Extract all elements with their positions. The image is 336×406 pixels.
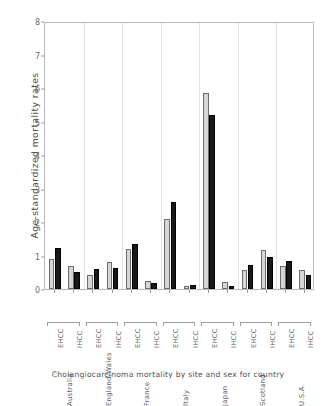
bar-u-s-a--ihcc-light — [299, 270, 305, 289]
site-tick-mark — [112, 290, 113, 293]
bar-japan-ehcc-light — [203, 93, 209, 289]
site-tick-mark — [247, 290, 248, 293]
y-axis-tick-label: 1 — [0, 252, 40, 261]
bar-japan-ihcc-dark — [229, 286, 235, 289]
bar-italy-ihcc-light — [184, 286, 190, 289]
bar-france-ehcc-dark — [132, 244, 138, 289]
bar-japan-ihcc-light — [222, 282, 228, 289]
bar-scotland-ehcc-dark — [248, 265, 254, 289]
site-tick-mark — [169, 290, 170, 293]
bar-u-s-a--ihcc-dark — [306, 275, 312, 289]
country-bracket — [86, 322, 119, 326]
country-bracket — [240, 322, 273, 326]
y-axis-tick-label: 8 — [0, 18, 40, 27]
site-tick-mark — [285, 290, 286, 293]
bar-scotland-ihcc-light — [261, 250, 267, 289]
y-axis-tick-label: 6 — [0, 85, 40, 94]
country-axis-labels: AustraliaEngland/WalesFranceItalyJapanSc… — [44, 322, 314, 366]
country-bracket — [201, 322, 234, 326]
country-label-australia: Australia — [66, 362, 74, 406]
site-axis-labels: EHCCIHCCEHCCIHCCEHCCIHCCEHCCIHCCEHCCIHCC… — [44, 292, 314, 322]
country-label-france: France — [143, 362, 151, 406]
bar-australia-ihcc-light — [68, 266, 74, 289]
bar-england-wales-ehcc-light — [87, 275, 93, 289]
bar-australia-ehcc-light — [49, 259, 55, 289]
bar-scotland-ihcc-dark — [267, 257, 273, 289]
site-tick-mark — [208, 290, 209, 293]
bar-scotland-ehcc-light — [242, 270, 248, 289]
site-tick-mark — [73, 290, 74, 293]
bar-japan-ehcc-dark — [209, 115, 215, 289]
bar-england-wales-ihcc-light — [107, 262, 113, 289]
bar-australia-ihcc-dark — [74, 272, 80, 289]
site-tick-mark — [304, 290, 305, 293]
bar-france-ehcc-light — [126, 249, 132, 289]
y-axis-tick-label: 0 — [0, 286, 40, 295]
site-tick-mark — [150, 290, 151, 293]
y-axis-tick-label: 2 — [0, 219, 40, 228]
country-label-scotland: Scotland — [259, 362, 267, 406]
bar-france-ihcc-dark — [151, 283, 157, 289]
y-axis-tick-label: 3 — [0, 185, 40, 194]
country-bracket — [163, 322, 196, 326]
bar-italy-ehcc-dark — [171, 202, 177, 289]
chart-caption: Cholangiocarcinoma mortality by site and… — [0, 370, 336, 379]
bar-england-wales-ehcc-dark — [94, 269, 100, 289]
bar-england-wales-ihcc-dark — [113, 268, 119, 289]
country-label-england-wales: England/Wales — [105, 362, 113, 406]
country-label-japan: Japan — [221, 362, 229, 406]
country-bracket — [278, 322, 311, 326]
country-bracket — [47, 322, 80, 326]
plot-area — [44, 22, 314, 290]
country-label-italy: Italy — [182, 362, 190, 406]
site-tick-mark — [131, 290, 132, 293]
bar-italy-ehcc-light — [164, 219, 170, 289]
site-tick-mark — [266, 290, 267, 293]
y-axis-tick-label: 7 — [0, 51, 40, 60]
site-tick-mark — [189, 290, 190, 293]
site-tick-mark — [227, 290, 228, 293]
site-tick-mark — [54, 290, 55, 293]
bar-australia-ehcc-dark — [55, 248, 61, 289]
country-label-u-s-a-: U.S.A. — [298, 362, 306, 406]
y-axis-tick-label: 5 — [0, 118, 40, 127]
country-bracket — [124, 322, 157, 326]
bar-u-s-a--ehcc-dark — [286, 261, 292, 289]
bar-france-ihcc-light — [145, 281, 151, 289]
bar-u-s-a--ehcc-light — [280, 266, 286, 289]
y-axis-tick-label: 4 — [0, 152, 40, 161]
bar-series-layer — [45, 23, 313, 289]
bar-italy-ihcc-dark — [190, 285, 196, 289]
site-tick-mark — [92, 290, 93, 293]
